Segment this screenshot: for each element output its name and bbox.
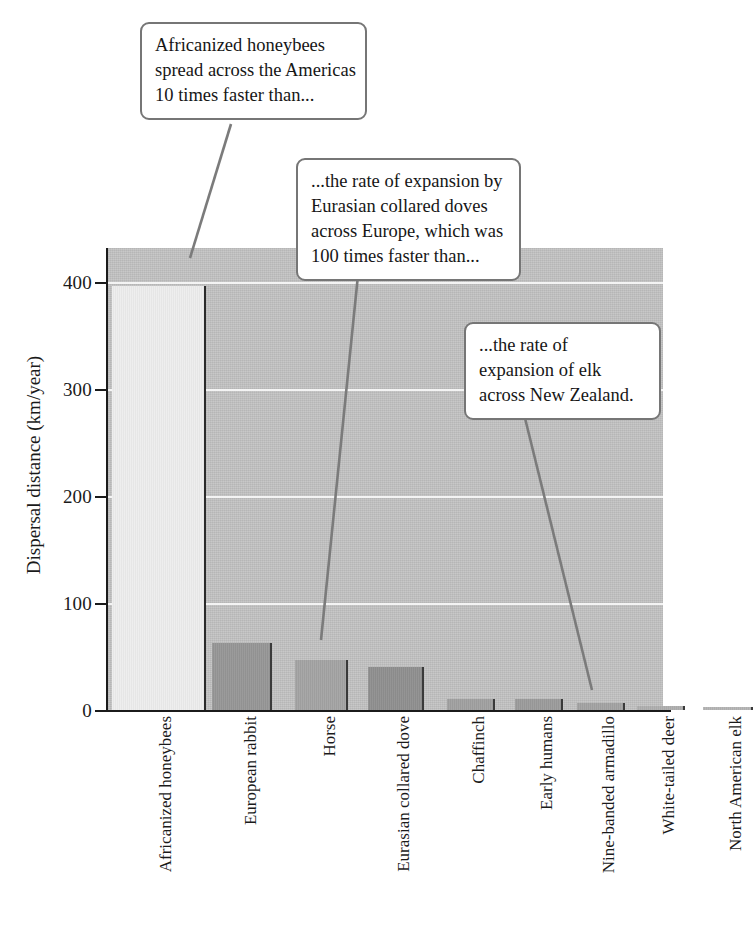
callout-elk-line-3: across New Zealand. bbox=[479, 383, 647, 408]
pointer-line-collared-dove bbox=[321, 275, 358, 640]
callout-honeybees-line-3: 10 times faster than... bbox=[155, 83, 353, 108]
callout-honeybees-line-2: spread across the Americas bbox=[155, 58, 353, 83]
callout-honeybees-line-1: Africanized honeybees bbox=[155, 33, 353, 58]
bar-north-american-elk bbox=[703, 707, 751, 710]
callout-collared-dove-line-2: Eurasian collared doves bbox=[311, 194, 507, 219]
pointer-line-honeybees bbox=[190, 124, 231, 258]
bar-edge bbox=[683, 706, 685, 710]
bar-face bbox=[703, 707, 751, 710]
callout-honeybees: Africanized honeybees spread across the … bbox=[140, 22, 367, 120]
callout-elk: ...the rate of expansion of elk across N… bbox=[464, 322, 661, 420]
callout-collared-dove-line-1: ...the rate of expansion by bbox=[311, 169, 507, 194]
callout-collared-dove: ...the rate of expansion by Eurasian col… bbox=[296, 158, 521, 281]
callout-elk-line-1: ...the rate of bbox=[479, 333, 647, 358]
callout-elk-line-2: expansion of elk bbox=[479, 358, 647, 383]
pointer-line-elk bbox=[523, 410, 592, 690]
callout-collared-dove-line-4: 100 times faster than... bbox=[311, 244, 507, 269]
x-label-north-american-elk: North American elk bbox=[727, 716, 744, 851]
callout-collared-dove-line-3: across Europe, which was bbox=[311, 219, 507, 244]
